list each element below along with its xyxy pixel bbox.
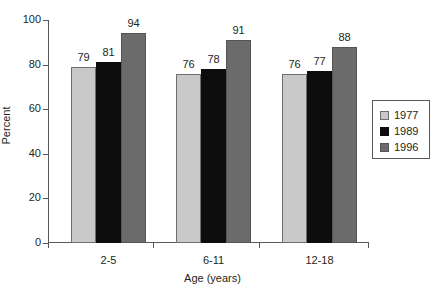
y-tick-label: 0	[5, 237, 41, 248]
legend-item: 1977	[380, 110, 418, 121]
legend-label: 1989	[394, 126, 418, 137]
plot-area: 798194767891767788	[48, 20, 369, 243]
legend-label: 1996	[394, 142, 418, 153]
legend-item: 1989	[380, 126, 418, 137]
legend-swatch	[380, 143, 389, 152]
x-category-label: 12-18	[275, 255, 365, 266]
bar-value-label: 77	[305, 56, 335, 67]
x-tick-mark	[48, 243, 49, 248]
bar	[176, 74, 201, 243]
legend-swatch	[380, 127, 389, 136]
bar-chart: Percent 020406080100 798194767891767788 …	[0, 0, 441, 295]
x-tick-mark	[259, 243, 260, 248]
bar-value-label: 78	[199, 54, 229, 65]
y-tick-label: 100	[5, 14, 41, 25]
bar	[282, 74, 307, 243]
x-tick-mark	[368, 243, 369, 248]
legend-label: 1977	[394, 110, 418, 121]
bar	[201, 69, 226, 243]
bar-group: 767788	[282, 20, 357, 243]
bar-group: 767891	[176, 20, 251, 243]
y-tick-label: 60	[5, 103, 41, 114]
bar-value-label: 94	[119, 18, 149, 29]
x-tick-mark	[153, 243, 154, 248]
bar	[307, 71, 332, 243]
legend: 197719891996	[372, 100, 430, 159]
legend-swatch	[380, 111, 389, 120]
x-category-label: 2-5	[64, 255, 154, 266]
bar-value-label: 91	[224, 25, 254, 36]
y-tick-label: 80	[5, 59, 41, 70]
bar	[96, 62, 121, 243]
bar-group: 798194	[71, 20, 146, 243]
y-tick-label: 20	[5, 192, 41, 203]
bar	[121, 33, 146, 243]
legend-item: 1996	[380, 142, 418, 153]
x-axis-title: Age (years)	[0, 272, 425, 284]
bar	[332, 47, 357, 243]
bar	[71, 67, 96, 243]
bar	[226, 40, 251, 243]
bar-value-label: 88	[330, 32, 360, 43]
x-category-label: 6-11	[169, 255, 259, 266]
bar-value-label: 81	[94, 47, 124, 58]
y-tick-label: 40	[5, 148, 41, 159]
